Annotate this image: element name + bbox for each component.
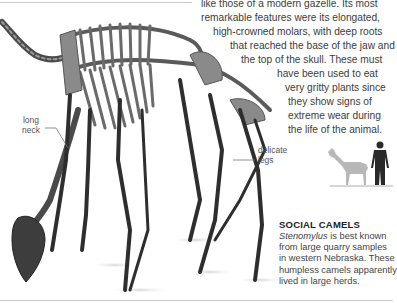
skull	[12, 216, 45, 282]
bottom-rule	[0, 300, 393, 301]
floor-shadows	[8, 237, 285, 293]
sidebar-line: from large quarry samples	[279, 242, 394, 253]
sidebar-line: humpless camels apparently	[279, 265, 394, 276]
sidebar-heading: SOCIAL CAMELS	[279, 219, 360, 230]
genus-name: Stenomylus	[279, 231, 328, 241]
long-neck-label-line2: neck	[22, 125, 40, 135]
body-line: they show signs of	[288, 96, 372, 108]
neck-vertebrae	[2, 22, 62, 59]
delicate-legs-label: delicate legs	[258, 145, 287, 165]
delicate-legs-label-line1: delicate	[258, 145, 287, 155]
sidebar-line: in western Nebraska. These	[279, 253, 394, 264]
sidebar-line-1-rest: is best known	[328, 231, 387, 241]
body-line: very gritty plants since	[285, 82, 386, 94]
body-line: like those of a modern gazelle. Its most	[201, 0, 378, 10]
scale-comparison-figure	[320, 140, 393, 195]
delicate-legs-label-line2: legs	[258, 155, 274, 165]
body-line: extreme wear during	[288, 110, 381, 122]
body-line: remarkable features were its elongated,	[201, 12, 380, 24]
legs	[52, 80, 265, 290]
sidebar-line-1: Stenomylus is best known	[279, 231, 394, 242]
body-line: high-crowned molars, with deep roots	[213, 26, 382, 38]
camel-silhouette-icon	[328, 148, 368, 185]
long-neck-label: long neck	[22, 115, 40, 135]
human-silhouette-icon	[371, 142, 389, 186]
scapula	[60, 30, 82, 95]
sidebar-line: lived in large herds.	[279, 276, 394, 287]
body-line: the life of the animal.	[288, 124, 382, 136]
body-line: that reached the base of the jaw and	[230, 40, 395, 52]
body-line: the top of the skull. These must	[241, 54, 382, 66]
sidebar-text: Stenomylus is best known from large quar…	[279, 231, 394, 287]
long-neck-label-line1: long	[23, 115, 39, 125]
neck-leader-line	[45, 128, 68, 148]
pelvis	[190, 52, 222, 85]
body-line: have been used to eat	[277, 68, 378, 80]
